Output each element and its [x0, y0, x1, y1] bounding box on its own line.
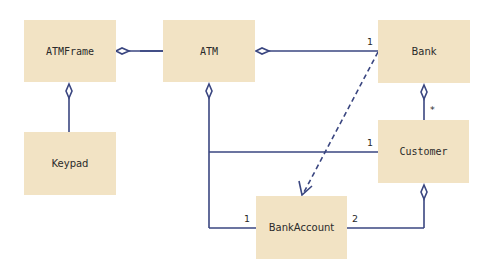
aggregation-diamond-icon: [421, 185, 427, 199]
aggregation-diamond-icon: [66, 84, 72, 98]
class-name: Keypad: [52, 158, 89, 169]
class-name: BankAccount: [269, 222, 335, 233]
aggregation-diamond-icon: [256, 48, 269, 54]
aggregation-diamond-icon: [421, 85, 427, 99]
class-keypad: Keypad: [24, 132, 116, 195]
multiplicity-atm-bankaccount: 1: [244, 213, 250, 224]
multiplicity-atm-customer: 1: [367, 137, 373, 148]
class-name: ATMFrame: [46, 46, 94, 57]
multiplicity-atm-bank: 1: [367, 36, 373, 47]
aggregation-diamond-icon: [206, 84, 212, 98]
class-name: ATM: [200, 46, 218, 57]
multiplicity-customer-bankaccount: 2: [352, 213, 358, 224]
class-customer: Customer: [378, 120, 469, 183]
class-bankaccount: BankAccount: [256, 196, 347, 259]
class-name: Bank: [411, 46, 436, 57]
class-atmframe: ATMFrame: [24, 20, 116, 82]
class-name: Customer: [399, 146, 447, 157]
class-bank: Bank: [378, 20, 470, 83]
class-atm: ATM: [163, 20, 255, 82]
dependency-bank-bankaccount: [303, 52, 378, 194]
uml-class-diagram: ATMFrame ATM Bank Keypad Customer BankAc…: [0, 0, 490, 267]
multiplicity-bank-customer: *: [430, 104, 435, 115]
aggregation-diamond-icon: [116, 48, 129, 54]
